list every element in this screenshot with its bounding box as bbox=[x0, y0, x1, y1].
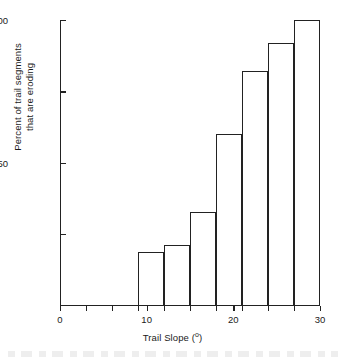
page-scan-artifact bbox=[8, 351, 338, 357]
x-axis-tick bbox=[320, 306, 321, 311]
y-axis-tick-label: 100 bbox=[0, 15, 8, 26]
x-axis-tick bbox=[112, 306, 113, 311]
y-axis-tick bbox=[61, 163, 66, 164]
x-axis-tick bbox=[216, 306, 217, 311]
histogram-bar bbox=[294, 20, 320, 305]
y-axis-title-line-1: Percent of trail segments bbox=[12, 43, 24, 151]
x-axis-tick bbox=[60, 306, 61, 311]
histogram-bar bbox=[242, 71, 268, 305]
x-axis-tick-label: 30 bbox=[305, 314, 335, 325]
y-axis-tick bbox=[61, 20, 66, 21]
y-axis-tick-label: 50 bbox=[0, 157, 8, 168]
plot-area: 10050 0102030 bbox=[60, 20, 320, 305]
y-axis-tick bbox=[61, 234, 66, 235]
x-axis-tick bbox=[164, 306, 165, 311]
x-axis-title-close-paren: ) bbox=[199, 332, 202, 343]
histogram-bar bbox=[216, 134, 242, 305]
histogram-bar bbox=[164, 245, 190, 305]
histogram-bar bbox=[190, 212, 216, 305]
x-axis-title: Trail Slope (o) bbox=[0, 331, 345, 343]
y-axis-title-line-2: that are eroding bbox=[24, 63, 36, 131]
x-axis-tick bbox=[233, 306, 234, 311]
y-axis-tick bbox=[61, 91, 66, 92]
x-axis-tick bbox=[190, 306, 191, 311]
histogram-figure: Percent of trail segments that are erodi… bbox=[0, 0, 345, 360]
x-axis-title-text: Trail Slope ( bbox=[143, 332, 195, 343]
x-axis-tick-label: 0 bbox=[45, 314, 75, 325]
x-axis-tick bbox=[147, 306, 148, 311]
histogram-bar bbox=[268, 43, 294, 305]
histogram-bar bbox=[138, 252, 164, 305]
x-axis-tick bbox=[268, 306, 269, 311]
x-axis-tick bbox=[138, 306, 139, 311]
x-axis-tick bbox=[86, 306, 87, 311]
x-axis-tick-label: 10 bbox=[132, 314, 162, 325]
x-axis-tick-label: 20 bbox=[218, 314, 248, 325]
x-axis-tick bbox=[242, 306, 243, 311]
x-axis-tick bbox=[294, 306, 295, 311]
y-axis-title: Percent of trail segments that are erodi… bbox=[7, 0, 41, 207]
